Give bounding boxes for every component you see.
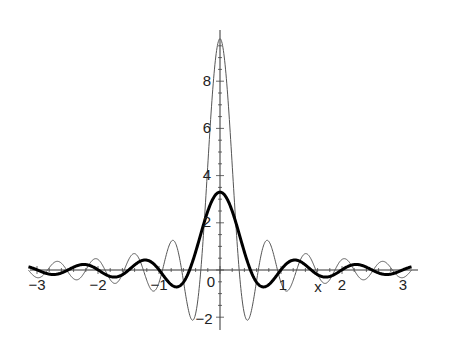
origin-label: 0: [207, 273, 215, 290]
x-tick-label: 2: [338, 276, 346, 293]
y-tick-label: 2: [203, 213, 211, 230]
x-tick-label: −3: [28, 276, 45, 293]
x-axis-title: x: [314, 278, 322, 295]
chart-plot: −3 −2 −1 1 2 3 x 0 8 6 4 2 −2: [0, 0, 451, 348]
x-tick-label: 3: [399, 276, 407, 293]
y-tick-label: 6: [203, 119, 211, 136]
x-tick-label: −2: [89, 276, 106, 293]
x-tick-label: 1: [279, 276, 287, 293]
x-tick-label: −1: [150, 276, 167, 293]
y-tick-label: 4: [203, 166, 211, 183]
y-tick-label: −2: [195, 310, 212, 327]
y-tick-label: 8: [203, 72, 211, 89]
